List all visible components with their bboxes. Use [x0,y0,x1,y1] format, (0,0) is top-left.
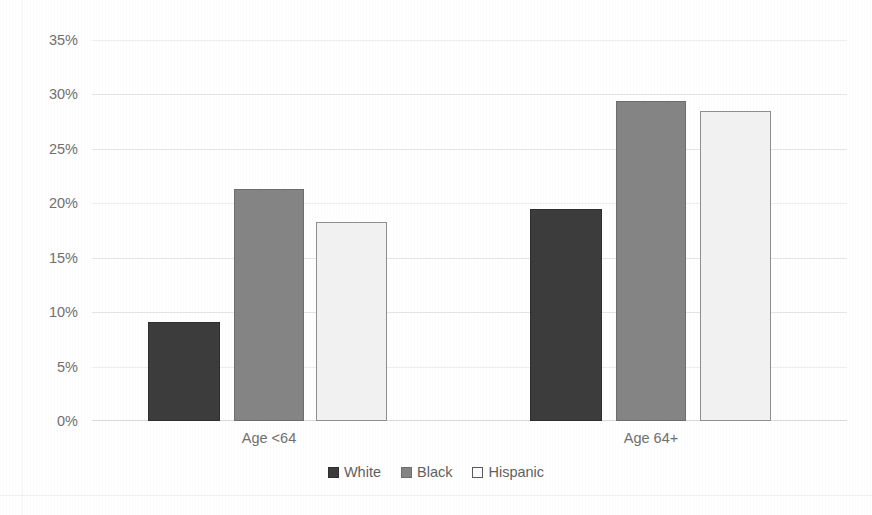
legend-label-hispanic: Hispanic [488,464,544,480]
x-category-label-0: Age <64 [242,430,296,446]
legend-label-white: White [344,464,381,480]
legend-swatch-white-icon [328,467,339,478]
legend-swatch-hispanic-icon [472,467,483,478]
y-tick-label-5: 25% [18,141,78,157]
gridline-30 [92,94,847,95]
y-tick-label-0: 0% [18,413,78,429]
y-tick-label-3: 15% [18,250,78,266]
plot-area [92,40,847,421]
x-category-label-1: Age 64+ [624,430,678,446]
chart-legend: White Black Hispanic [0,464,872,480]
bar-age-under64-hispanic [316,222,387,421]
legend-item-black[interactable]: Black [401,464,452,480]
legend-item-white[interactable]: White [328,464,381,480]
bar-age-64plus-hispanic [700,111,771,421]
bar-chart: 0% 5% 10% 15% 20% 25% 30% 35% Age <64 Ag… [0,0,872,515]
bar-age-64plus-white [530,209,602,421]
gridline-35 [92,40,847,41]
legend-swatch-black-icon [401,467,412,478]
bar-age-under64-black [234,189,304,421]
legend-item-hispanic[interactable]: Hispanic [472,464,544,480]
bar-age-64plus-black [616,101,686,421]
scan-line-artifact [0,495,872,496]
y-tick-label-4: 20% [18,195,78,211]
y-tick-label-7: 35% [18,32,78,48]
y-axis: 0% 5% 10% 15% 20% 25% 30% 35% [18,40,78,421]
legend-label-black: Black [417,464,452,480]
y-tick-label-6: 30% [18,86,78,102]
bar-age-under64-white [148,322,220,421]
y-tick-label-2: 10% [18,304,78,320]
y-tick-label-1: 5% [18,359,78,375]
